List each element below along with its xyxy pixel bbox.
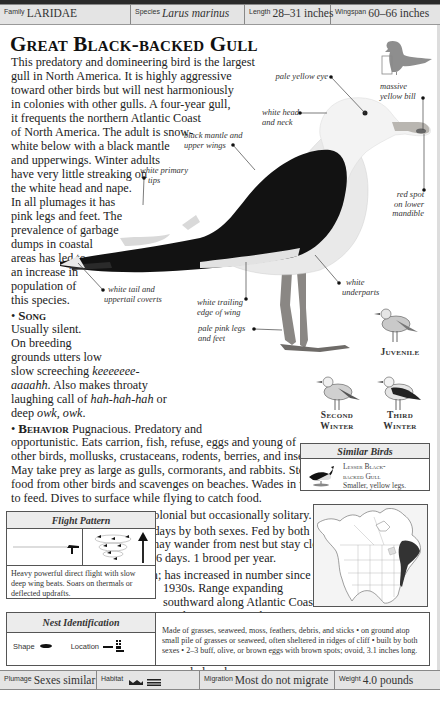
second-winter-gull bbox=[316, 377, 360, 410]
label-white-underparts: white underparts bbox=[342, 278, 379, 297]
label-white-trailing-edge: white trailing edge of wing bbox=[197, 298, 243, 317]
label-line: uppertail coverts bbox=[104, 295, 162, 305]
behavior-heading: Behavior bbox=[18, 421, 69, 436]
habitat-label: Habitat bbox=[101, 675, 123, 682]
label-pale-pink-legs: pale pink legs and feet bbox=[198, 324, 245, 343]
plumage-label: Plumage bbox=[4, 675, 32, 682]
label-line: upper wings bbox=[184, 141, 243, 151]
weight-cell: Weight 4.0 pounds bbox=[335, 671, 440, 689]
nest-shape-row: Shape Location bbox=[13, 639, 126, 653]
similar-birds-box: Similar Birds Lesser Black- backed Gull … bbox=[300, 443, 430, 491]
label-line: and neck bbox=[262, 118, 299, 128]
similar-bird-name: backed Gull bbox=[343, 472, 406, 482]
migration-cell: Migration Most do not migrate bbox=[200, 671, 335, 689]
label-line: mandible bbox=[384, 209, 424, 219]
similar-bird-info: Lesser Black- backed Gull Smaller, yello… bbox=[343, 462, 406, 491]
third-winter-gull bbox=[377, 377, 421, 410]
north-america-map bbox=[314, 505, 427, 606]
nest-location-label: Location bbox=[71, 642, 99, 651]
direct-flight-icon bbox=[7, 529, 83, 566]
migration-value: Most do not migrate bbox=[235, 674, 329, 686]
nest-shape-label: Shape bbox=[13, 642, 35, 651]
nest-description: Made of grasses, seaweed, moss, feathers… bbox=[156, 613, 429, 665]
water-habitat-icon bbox=[147, 678, 161, 686]
behavior-line: to feed. Dives to surface while flying t… bbox=[11, 492, 262, 506]
field-guide-page: Family LARIDAE Species Larus marinus Len… bbox=[0, 0, 440, 702]
behavior-line: opportunistic. Eats carrion, fish, refus… bbox=[11, 436, 296, 450]
label-juvenile: Juvenile bbox=[374, 347, 426, 358]
range-map bbox=[313, 504, 428, 607]
cup-nest-shape-icon bbox=[39, 642, 53, 650]
label-pale-yellow-eye: pale yellow eye bbox=[250, 72, 328, 82]
population-line: 1930s. Range expanding bbox=[163, 582, 283, 596]
plumage-value: Sexes similar bbox=[34, 674, 96, 686]
label-white-tail: white tail and uppertail coverts bbox=[104, 285, 162, 304]
soaring-flight-icon bbox=[83, 529, 155, 566]
juvenile-gull bbox=[374, 309, 418, 342]
habitat-cell: Habitat bbox=[97, 671, 200, 689]
flight-pattern-diagrams bbox=[7, 529, 155, 566]
soaring-flight-diagram bbox=[83, 529, 155, 565]
label-black-mantle: black mantle and upper wings bbox=[184, 131, 243, 150]
flight-pattern-description: Heavy powerful direct flight with slow d… bbox=[7, 566, 155, 602]
migration-label: Migration bbox=[204, 675, 233, 682]
coastal-cliff-habitat-icon bbox=[129, 678, 143, 686]
label-white-head: white head and neck bbox=[262, 108, 299, 127]
nest-id-left: Nest Identification Shape Location bbox=[7, 613, 156, 665]
direct-flight-diagram bbox=[7, 529, 83, 565]
similar-bird-desc: Smaller, yellow legs. bbox=[343, 481, 406, 491]
label-line: edge of wing bbox=[197, 308, 243, 318]
label-massive-yellow-bill: massive yellow bill bbox=[380, 82, 416, 101]
label-red-spot: red spot on lower mandible bbox=[384, 190, 424, 219]
similar-bird-name: Lesser Black- bbox=[343, 462, 406, 472]
label-white-primary: white primary tips bbox=[140, 166, 188, 185]
label-line: Winter bbox=[312, 421, 362, 432]
lesser-black-backed-gull-icon bbox=[307, 463, 335, 487]
label-line: Winter bbox=[375, 421, 425, 432]
weight-value: 4.0 pounds bbox=[363, 674, 413, 686]
flight-pattern-box: Flight Pattern bbox=[6, 511, 156, 599]
flight-pattern-title: Flight Pattern bbox=[7, 512, 155, 529]
label-second-winter: Second Winter bbox=[312, 410, 362, 432]
label-line: tips bbox=[140, 176, 188, 186]
plumage-cell: Plumage Sexes similar bbox=[0, 671, 97, 689]
summary-bar: Plumage Sexes similar Habitat Migration … bbox=[0, 670, 440, 690]
label-line: Third bbox=[375, 410, 425, 421]
behavior-text: Pugnacious. Predatory and bbox=[72, 422, 202, 436]
label-line: yellow bill bbox=[380, 92, 416, 102]
population-line: southward along Atlantic Coast. bbox=[163, 596, 319, 610]
behavior-line: other birds, mollusks, crustaceans, rode… bbox=[11, 450, 320, 464]
behavior-line: May take prey as large as gulls, cormora… bbox=[11, 464, 318, 478]
behavior-line: food from other birds and scavenges on b… bbox=[11, 478, 326, 492]
ground-cliff-location-icon bbox=[102, 639, 126, 653]
similar-birds-title: Similar Birds bbox=[301, 444, 429, 459]
weight-label: Weight bbox=[339, 675, 361, 682]
label-line: underparts bbox=[342, 288, 379, 298]
nest-id-title: Nest Identification bbox=[7, 613, 155, 633]
label-third-winter: Third Winter bbox=[375, 410, 425, 432]
label-line: and feet bbox=[198, 334, 245, 344]
label-line: Second bbox=[312, 410, 362, 421]
nest-identification-box: Nest Identification Shape Location Made … bbox=[6, 612, 430, 666]
